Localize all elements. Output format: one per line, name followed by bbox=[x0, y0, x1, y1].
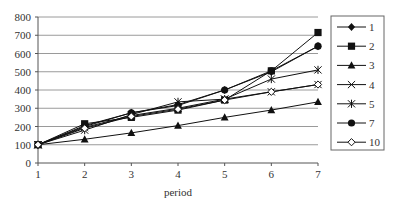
y-tick-label: 700 bbox=[15, 29, 32, 41]
legend-label: 7 bbox=[369, 117, 375, 129]
circle-marker-icon bbox=[348, 119, 355, 126]
y-tick-label: 500 bbox=[15, 66, 32, 78]
x-tick-label: 3 bbox=[129, 168, 135, 180]
x-axis-ticks: 1234567 bbox=[35, 163, 321, 180]
square-marker-icon bbox=[348, 43, 355, 50]
legend-label: 1 bbox=[369, 21, 375, 33]
x-tick-label: 1 bbox=[35, 168, 41, 180]
y-tick-label: 400 bbox=[15, 84, 32, 96]
series-10 bbox=[34, 81, 321, 148]
circle-marker-icon bbox=[221, 86, 228, 93]
x-axis-title: period bbox=[164, 186, 193, 198]
y-tick-label: 800 bbox=[15, 11, 32, 23]
legend-label: 4 bbox=[369, 79, 375, 91]
legend-label: 3 bbox=[369, 59, 375, 71]
y-tick-label: 0 bbox=[26, 157, 32, 169]
legend-label: 10 bbox=[369, 136, 381, 148]
line-chart: 0100200300400500600700800 1234567 period… bbox=[0, 0, 397, 204]
x-tick-label: 6 bbox=[269, 168, 275, 180]
square-marker-icon bbox=[314, 29, 321, 36]
series-line bbox=[38, 85, 318, 145]
x-tick-label: 2 bbox=[82, 168, 88, 180]
circle-marker-icon bbox=[314, 43, 321, 50]
y-tick-label: 200 bbox=[15, 121, 32, 133]
x-tick-label: 4 bbox=[175, 168, 181, 180]
legend-label: 5 bbox=[369, 98, 375, 110]
data-series bbox=[34, 29, 322, 149]
y-tick-label: 600 bbox=[15, 48, 32, 60]
legend-box bbox=[331, 16, 384, 150]
x-tick-label: 5 bbox=[222, 168, 228, 180]
legend-label: 2 bbox=[369, 40, 375, 52]
y-tick-label: 100 bbox=[15, 139, 32, 151]
legend: 12345710 bbox=[331, 16, 384, 150]
triangle-marker-icon bbox=[314, 98, 322, 105]
x-tick-label: 7 bbox=[315, 168, 321, 180]
y-tick-label: 300 bbox=[15, 102, 32, 114]
series-line bbox=[38, 85, 318, 145]
circle-marker-icon bbox=[268, 67, 275, 74]
